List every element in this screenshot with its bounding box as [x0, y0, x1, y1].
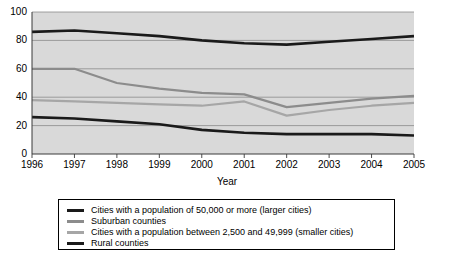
legend-item: Suburban counties — [59, 216, 394, 226]
plot-background-group — [32, 12, 414, 154]
legend-swatch-line-icon — [67, 242, 84, 245]
x-axis-title: Year — [0, 176, 454, 187]
x-tick-label-2003: 2003 — [309, 160, 349, 170]
x-tick-label-2002: 2002 — [267, 160, 307, 170]
y-tick-label-40: 40 — [1, 92, 27, 102]
x-tick-label-2001: 2001 — [224, 160, 264, 170]
line-chart-figure: 020406080100 199619971998199920002001200… — [0, 0, 454, 259]
x-tick-marks-group — [32, 154, 414, 158]
x-tick-label-1999: 1999 — [139, 160, 179, 170]
legend-item: Rural counties — [59, 238, 394, 248]
legend-label: Rural counties — [91, 238, 149, 248]
x-tick-label-1996: 1996 — [12, 160, 52, 170]
plot-area: 020406080100 199619971998199920002001200… — [0, 6, 454, 166]
legend-swatch-line-icon — [67, 209, 84, 212]
legend-item: Cities with a population between 2,500 a… — [59, 227, 394, 237]
legend-swatch-line-icon — [67, 231, 84, 234]
plot-background — [32, 12, 414, 154]
x-tick-label-1998: 1998 — [97, 160, 137, 170]
legend-swatch-line-icon — [67, 220, 84, 223]
legend-label: Cities with a population between 2,500 a… — [91, 227, 353, 237]
x-tick-label-1997: 1997 — [54, 160, 94, 170]
x-tick-label-2000: 2000 — [182, 160, 222, 170]
plot-svg — [0, 6, 454, 166]
x-tick-label-2004: 2004 — [352, 160, 392, 170]
legend-label: Suburban counties — [91, 216, 166, 226]
x-tick-label-2005: 2005 — [394, 160, 434, 170]
y-tick-label-20: 20 — [1, 121, 27, 131]
y-tick-label-0: 0 — [1, 149, 27, 159]
y-tick-label-60: 60 — [1, 64, 27, 74]
y-tick-label-80: 80 — [1, 35, 27, 45]
chart-legend: Cities with a population of 50,000 or mo… — [58, 199, 395, 250]
legend-item: Cities with a population of 50,000 or mo… — [59, 205, 394, 215]
legend-label: Cities with a population of 50,000 or mo… — [91, 205, 312, 215]
y-tick-label-100: 100 — [1, 7, 27, 17]
